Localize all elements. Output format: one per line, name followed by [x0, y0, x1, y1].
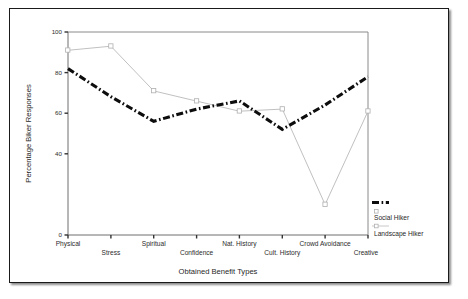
series-social-hiker	[68, 69, 368, 130]
x-tick-label-nat-history: Nat. History	[222, 240, 257, 248]
y-tick-label: 40	[55, 150, 62, 157]
y-axis-title: Percentage Biker Responses	[24, 84, 33, 183]
data-point-marker	[323, 202, 327, 206]
x-tick-label-spiritual: Spiritual	[142, 240, 166, 248]
y-axis-tick-labels: 100 80 60 40 0	[52, 28, 63, 238]
y-axis-ticks	[65, 32, 69, 235]
y-tick-label: 60	[55, 109, 62, 116]
x-tick-label-stress: Stress	[102, 249, 121, 256]
data-point-marker	[194, 99, 198, 103]
x-tick-label-creative: Creative	[354, 249, 379, 256]
line-chart-svg: 100 80 60 40 0 Physical Stress Spiritual…	[0, 0, 468, 299]
y-tick-label: 0	[59, 231, 63, 238]
chart-canvas: 100 80 60 40 0 Physical Stress Spiritual…	[0, 0, 468, 299]
series-landscape-hiker	[66, 44, 370, 207]
data-point-marker	[152, 89, 156, 93]
legend-label-landscape-hiker: Landscape Hiker	[374, 230, 424, 238]
y-tick-label: 80	[55, 69, 62, 76]
x-tick-label-physical: Physical	[56, 240, 81, 248]
legend-square-landscape-hiker	[375, 224, 379, 228]
y-tick-label: 100	[52, 28, 63, 35]
x-axis-category-labels: Physical Stress Spiritual Confidence Nat…	[56, 240, 379, 257]
data-point-marker	[109, 44, 113, 48]
legend-label-social-hiker: Social Hiker	[374, 214, 410, 221]
x-tick-label-confidence: Confidence	[180, 249, 214, 256]
x-tick-label-crowd-avoidance: Crowd Avoidance	[299, 240, 351, 247]
data-point-marker	[366, 109, 370, 113]
data-point-marker	[280, 107, 284, 111]
x-tick-label-cult-history: Cult. History	[264, 249, 301, 257]
data-point-marker	[66, 48, 70, 52]
data-point-marker	[237, 109, 241, 113]
x-axis-ticks	[68, 235, 368, 239]
x-axis-title: Obtained Benefit Types	[179, 267, 258, 276]
chart-legend: Social Hiker Landscape Hiker	[372, 203, 424, 239]
